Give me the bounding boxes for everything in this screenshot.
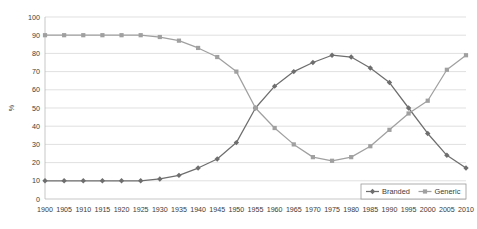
x-axis-tick-label: 1985 <box>362 206 378 214</box>
x-axis-tick-label: 1910 <box>75 206 91 214</box>
data-point-marker <box>119 178 124 183</box>
legend-label: Branded <box>382 187 410 196</box>
data-point-marker <box>445 68 449 72</box>
x-axis-tick-label: 1955 <box>248 206 264 214</box>
legend-group: BrandedGeneric <box>361 184 466 199</box>
data-point-marker <box>387 128 391 132</box>
data-point-marker <box>138 178 143 183</box>
x-axis-tick-label: 1930 <box>152 206 168 214</box>
y-axis-tick-label: 100 <box>28 13 40 22</box>
data-point-marker <box>43 33 47 37</box>
data-point-marker <box>158 35 162 39</box>
x-axis-tick-label: 1935 <box>171 206 187 214</box>
x-axis-tick-label: 2010 <box>458 206 474 214</box>
data-point-marker <box>464 53 468 57</box>
x-axis-tick-label: 1900 <box>37 206 53 214</box>
y-axis-tick-label: 50 <box>32 104 40 113</box>
data-point-marker <box>81 178 86 183</box>
x-axis-tick-label: 1940 <box>190 206 206 214</box>
y-axis-tick-label: 30 <box>32 140 40 149</box>
data-point-marker <box>100 178 105 183</box>
data-point-marker <box>310 60 315 65</box>
x-axis-tick-label: 1965 <box>286 206 302 214</box>
x-axis-tick-label: 1945 <box>209 206 225 214</box>
y-axis-tick-label: 70 <box>32 67 40 76</box>
data-point-marker <box>42 178 47 183</box>
series-line <box>45 35 466 161</box>
data-point-marker <box>426 99 430 103</box>
data-point-marker <box>292 142 296 146</box>
x-axis-tick-label: 1920 <box>114 206 130 214</box>
y-axis-tick-label: 10 <box>32 176 40 185</box>
y-axis-tick-label: 40 <box>32 122 40 131</box>
y-axis-tick-label: 20 <box>32 158 40 167</box>
data-point-marker <box>62 33 66 37</box>
x-axis-tick-label: 1915 <box>95 206 111 214</box>
series-branded <box>42 53 468 184</box>
data-point-marker <box>119 33 123 37</box>
data-point-marker <box>81 33 85 37</box>
series-generic <box>43 33 468 163</box>
legend-marker-swatch <box>423 189 427 193</box>
y-axis-tick-label: 90 <box>32 31 40 40</box>
data-point-marker <box>234 70 238 74</box>
legend-label: Generic <box>435 187 461 196</box>
y-axis-title-group: % <box>7 104 16 111</box>
x-axis-tick-label: 1970 <box>305 206 321 214</box>
y-axis-tick-label: 60 <box>32 85 40 94</box>
data-point-marker <box>100 33 104 37</box>
x-axis-tick-label: 1950 <box>228 206 244 214</box>
data-point-marker <box>349 155 353 159</box>
data-point-marker <box>253 106 257 110</box>
data-point-marker <box>176 173 181 178</box>
data-point-marker <box>273 126 277 130</box>
x-axis-ticks-group: 1900190519101915192019251930193519401945… <box>37 206 474 214</box>
x-axis-tick-label: 1990 <box>382 206 398 214</box>
x-axis-tick-label: 2000 <box>420 206 436 214</box>
line-chart-plot: 0102030405060708090100 19001905191019151… <box>0 0 477 229</box>
y-axis-ticks-group: 0102030405060708090100 <box>28 13 40 204</box>
y-axis-title: % <box>7 104 16 111</box>
x-axis-tick-label: 1925 <box>133 206 149 214</box>
x-axis-tick-label: 1905 <box>56 206 72 214</box>
x-axis-tick-label: 1960 <box>267 206 283 214</box>
data-point-marker <box>348 54 353 59</box>
data-point-marker <box>139 33 143 37</box>
chart-container: 0102030405060708090100 19001905191019151… <box>0 0 477 229</box>
data-point-marker <box>311 155 315 159</box>
data-point-marker <box>196 46 200 50</box>
data-point-marker <box>330 159 334 163</box>
x-axis-tick-label: 1975 <box>324 206 340 214</box>
data-point-marker <box>215 55 219 59</box>
data-point-marker <box>177 39 181 43</box>
data-point-marker <box>406 111 410 115</box>
y-axis-tick-label: 80 <box>32 49 40 58</box>
x-axis-tick-label: 2005 <box>439 206 455 214</box>
data-point-marker <box>195 165 200 170</box>
x-axis-tick-label: 1980 <box>343 206 359 214</box>
data-point-marker <box>368 144 372 148</box>
data-point-marker <box>61 178 66 183</box>
y-axis-tick-label: 0 <box>36 195 40 204</box>
x-axis-tick-label: 1995 <box>401 206 417 214</box>
